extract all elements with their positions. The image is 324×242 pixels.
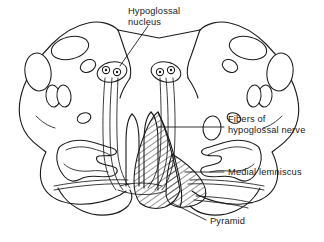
- medulla-cross-section-figure: Hypoglossal nucleus Fibers of hypoglossa…: [0, 0, 324, 242]
- label-medial-lemniscus: Medial lemniscus: [228, 167, 302, 177]
- label-hypoglossal-nucleus-line1: Hypoglossal: [128, 6, 180, 16]
- label-fibers-line2: hypoglossal nerve: [228, 125, 306, 135]
- label-hypoglossal-nucleus-line2: nucleus: [128, 17, 161, 27]
- leader-hypoglossal-nucleus: [120, 26, 148, 66]
- label-fibers-of-hypoglossal-nerve: Fibers of hypoglossal nerve: [228, 114, 306, 135]
- label-pyramid: Pyramid: [210, 216, 245, 226]
- label-fibers-line1: Fibers of: [228, 114, 266, 124]
- label-hypoglossal-nucleus: Hypoglossal nucleus: [128, 6, 183, 27]
- label-medial-lemniscus-line1: Medial lemniscus: [228, 167, 302, 177]
- left-wing-nuclei: [22, 33, 97, 128]
- diagram-page: Hypoglossal nucleus Fibers of hypoglossa…: [0, 0, 324, 242]
- label-pyramid-line1: Pyramid: [210, 216, 245, 226]
